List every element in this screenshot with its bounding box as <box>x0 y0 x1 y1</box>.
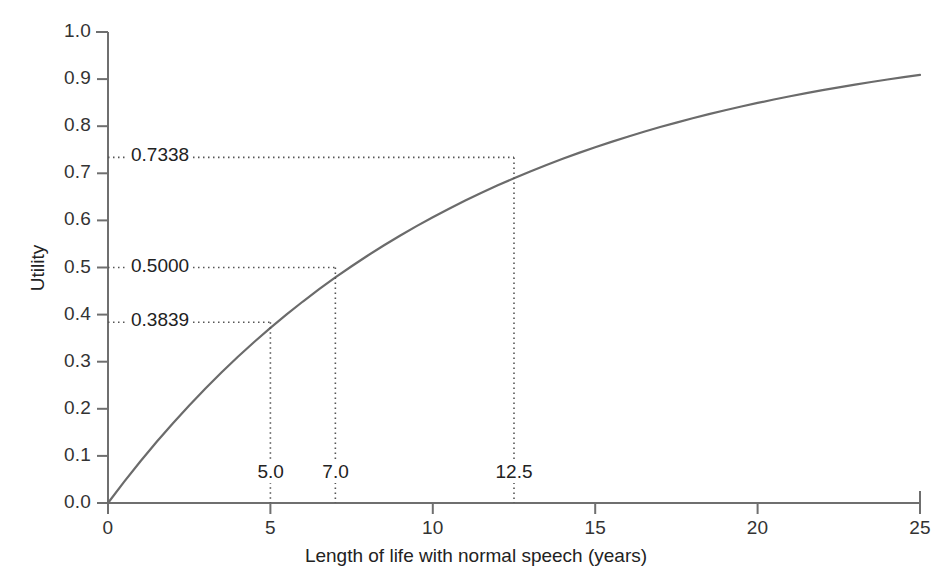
annotation-x-value: 12.5 <box>493 461 536 483</box>
y-axis-tick-label: 0.8 <box>27 114 91 136</box>
x-axis-tick-label: 5 <box>240 517 300 539</box>
y-axis-tick-label: 0.2 <box>27 397 91 419</box>
annotation-y-value: 0.3839 <box>128 309 192 331</box>
x-axis-tick-label: 25 <box>890 517 950 539</box>
y-axis-tick-label: 1.0 <box>27 20 91 42</box>
annotation-x-value: 5.0 <box>254 461 286 483</box>
y-axis-tick-label: 0.0 <box>27 491 91 513</box>
y-axis-tick-label: 0.7 <box>27 161 91 183</box>
x-axis-tick-label: 20 <box>728 517 788 539</box>
x-axis-title: Length of life with normal speech (years… <box>0 545 952 567</box>
utility-curve-figure: 0.00.10.20.30.40.50.60.70.80.91.00510152… <box>0 0 952 585</box>
annotation-x-value: 7.0 <box>319 461 351 483</box>
y-axis-tick-label: 0.3 <box>27 350 91 372</box>
y-axis-tick-label: 0.6 <box>27 208 91 230</box>
x-axis-tick-label: 15 <box>565 517 625 539</box>
y-axis-tick-label: 0.9 <box>27 67 91 89</box>
y-axis-title: Utility <box>27 244 49 290</box>
y-axis-tick-label: 0.1 <box>27 444 91 466</box>
x-axis-tick-label: 10 <box>403 517 463 539</box>
x-axis-tick-label: 0 <box>78 517 138 539</box>
y-axis-tick-label: 0.4 <box>27 303 91 325</box>
annotation-y-value: 0.5000 <box>128 255 192 277</box>
chart-canvas <box>0 0 952 585</box>
annotation-y-value: 0.7338 <box>128 144 192 166</box>
